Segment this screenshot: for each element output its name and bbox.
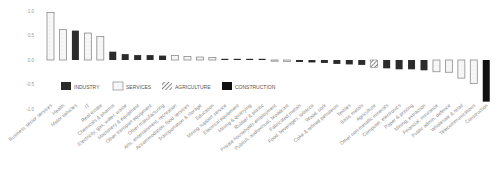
legend-label-agriculture: AGRICULTURE	[175, 84, 211, 90]
bar-telecommunications	[470, 60, 477, 84]
bar-education	[209, 58, 216, 60]
bar-health	[59, 30, 66, 60]
y-tick-label: 0.0	[28, 58, 35, 63]
legend-label-industry: INDUSTRY	[74, 84, 100, 90]
y-tick-label: 1.0	[28, 9, 35, 14]
bar-wholesale-retail	[458, 60, 465, 78]
legend-label-services: SERVICES	[126, 84, 152, 90]
bar-accommodation-food-services	[184, 57, 191, 60]
bar-financial-insurance	[433, 60, 440, 72]
bar-fabricated-metals	[296, 60, 303, 62]
legend-label-construction: CONSTRUCTION	[235, 84, 276, 90]
bar-mining-quarrying	[246, 59, 253, 60]
bar-real-estate	[97, 36, 104, 60]
bar-machinery-equipment	[134, 55, 141, 60]
bar-electrical-equipment	[234, 59, 241, 60]
bar-public-admin-defence	[445, 60, 452, 72]
y-tick-label: 0.5	[28, 33, 35, 38]
bar-chemicals-pharma	[109, 52, 116, 60]
bar-it	[84, 33, 91, 60]
bar-transportation-storage	[196, 57, 203, 60]
bar-business-sector-services	[47, 12, 54, 60]
y-tick-label: -1.0	[26, 107, 34, 112]
bar-construction	[483, 60, 490, 102]
x-category-label: IT	[83, 102, 90, 109]
bar-paper-printing	[408, 60, 415, 69]
bar-motor-vehicles	[72, 31, 79, 60]
legend-swatch-services	[113, 82, 123, 90]
bar-chart: 1.00.50.0-0.5-1.0 INDUSTRYSERVICESAGRICU…	[0, 0, 499, 185]
bar-agriculture	[371, 60, 378, 67]
legend: INDUSTRYSERVICESAGRICULTURECONSTRUCTION	[61, 82, 276, 90]
y-tick-label: -0.5	[26, 82, 34, 87]
bar-textiles	[346, 60, 353, 64]
legend-swatch-construction	[222, 82, 232, 90]
bar-other-manufacturing	[159, 56, 166, 60]
bar-arts-entertainment-recreation	[172, 56, 179, 60]
bar-mining-support-service	[221, 59, 228, 60]
bar-basic-metals	[358, 60, 365, 65]
bar-other-transport-equipment	[147, 55, 154, 60]
bar-food-beverages-tobacco	[308, 60, 315, 62]
bar-electricity-gas-water-waste	[122, 54, 129, 60]
x-axis-labels: Business sector servicesHealthMotor vehi…	[7, 102, 489, 153]
bar-private-households-employment	[271, 60, 278, 61]
bar-rubber-plastic	[259, 59, 266, 60]
bar-other-non-metallic-minerals	[383, 60, 390, 68]
bar-wood-cork	[321, 60, 328, 63]
legend-swatch-agriculture	[162, 82, 172, 90]
bar-coke-refined-petroleum	[333, 60, 340, 64]
legend-swatch-industry	[61, 82, 71, 90]
bar-mining-extraction	[421, 60, 428, 70]
bar-computer-electronics	[396, 60, 403, 69]
y-axis: 1.00.50.0-0.5-1.0	[26, 9, 34, 112]
bar-publish-audiovisual-broadcast	[284, 60, 291, 61]
